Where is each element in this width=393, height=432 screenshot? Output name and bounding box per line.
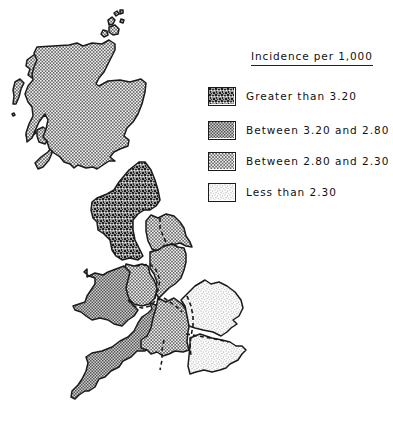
legend-label: Between 2.80 and 2.30 [246,155,389,167]
checker-pattern-icon [209,122,234,138]
legend-swatch-low [208,183,236,202]
legend-label: Between 3.20 and 2.80 [246,124,389,136]
legend-label: Less than 2.30 [246,186,337,198]
legend-item-between-3-20-and-2-80: Between 3.20 and 2.80 [208,120,389,140]
legend-swatch-high [208,87,236,106]
region-scotland [25,40,146,169]
legend-swatch-midhigh [208,121,236,140]
legend-item-greater-than-3-20: Greater than 3.20 [208,86,357,106]
region-east-anglia [181,280,243,336]
legend-title: Incidence per 1,000 [251,50,373,66]
legend-swatch-midlow [208,152,236,171]
region-wales [73,266,138,326]
legend-item-between-2-80-and-2-30: Between 2.80 and 2.30 [208,151,389,171]
sparse-stipple-pattern-icon [209,184,234,200]
dense-stipple-pattern-icon [209,88,234,104]
legend-label: Greater than 3.20 [246,90,357,102]
northern-isles [101,10,124,37]
legend-item-less-than-2-30: Less than 2.30 [208,182,337,202]
choropleth-map: Incidence per 1,000 Greater than 3.20 Be… [0,0,393,432]
dotted-pattern-icon [209,153,234,169]
